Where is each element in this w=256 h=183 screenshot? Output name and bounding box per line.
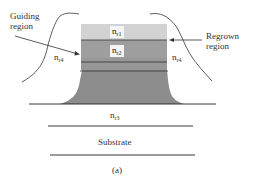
nr1-label: nr1	[110, 26, 124, 38]
regrown-region-label: Regrown region	[206, 31, 239, 51]
layer-nr1	[81, 24, 167, 40]
figure-caption: (a)	[112, 165, 122, 175]
nr2-label: nr2	[110, 45, 124, 57]
mesa-base	[60, 70, 184, 104]
nr4-right-label: nr4	[172, 52, 182, 63]
layer-lower	[81, 58, 167, 70]
guiding-region-label: Guiding region	[10, 11, 40, 31]
substrate-label: Substrate	[98, 137, 132, 147]
nr3-label: nr3	[110, 110, 120, 121]
layer-nr2	[81, 40, 167, 58]
nr4-left-label: nr4	[54, 52, 64, 63]
